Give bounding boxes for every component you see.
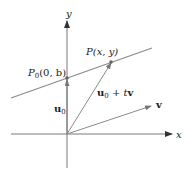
vector-v [67,106,151,134]
point-p [109,60,113,64]
p0-label: P0(0, b) [27,67,66,80]
v-label: v [155,99,163,110]
u0-plus-tv-label: u0 + tv [97,87,135,100]
line-vector-diagram: y x P0(0, b) P(x, y) u0 u0 + tv v [0,0,192,179]
p-label: P(x, y) [85,46,118,57]
diagram-canvas: y x P0(0, b) P(x, y) u0 u0 + tv v [0,0,192,179]
x-axis-label: x [176,129,182,140]
y-axis-label: y [65,8,72,19]
u0-label: u0 [54,103,66,116]
